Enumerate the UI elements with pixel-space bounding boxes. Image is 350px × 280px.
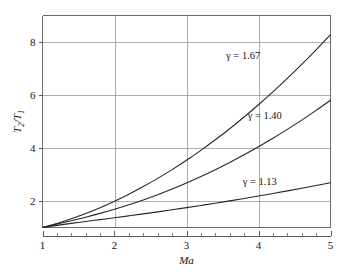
chart-figure: 123452468 γ = 1.67γ = 1.40γ = 1.13 MaT2/…	[0, 0, 350, 280]
x-tick-label: 1	[40, 239, 46, 251]
chart-background	[0, 0, 350, 280]
series-annotation-label: γ = 1.40	[247, 110, 282, 121]
x-tick-label: 5	[328, 239, 334, 251]
temperature-ratio-line-chart: 123452468 γ = 1.67γ = 1.40γ = 1.13 MaT2/…	[0, 0, 350, 280]
x-tick-label: 3	[184, 239, 190, 251]
x-axis-title: Ma	[178, 254, 194, 266]
x-tick-label: 2	[112, 239, 118, 251]
x-tick-label: 4	[256, 239, 262, 251]
y-tick-label: 8	[30, 36, 36, 48]
y-tick-label: 4	[30, 142, 36, 154]
y-tick-label: 6	[30, 89, 36, 101]
y-tick-label: 2	[30, 195, 36, 207]
series-annotation-label: γ = 1.13	[242, 176, 277, 187]
series-annotation-label: γ = 1.67	[225, 50, 260, 61]
